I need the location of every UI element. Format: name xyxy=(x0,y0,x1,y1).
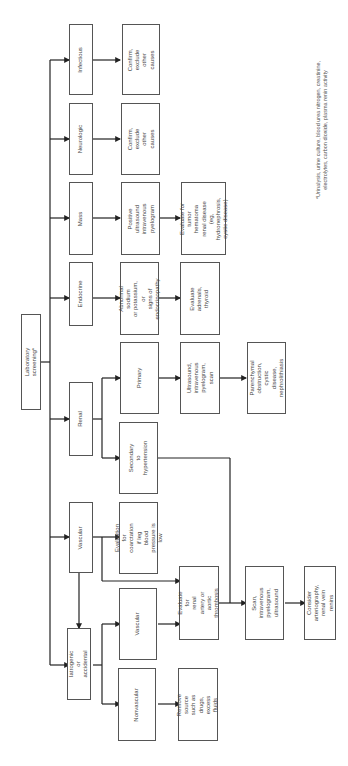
node-endocrine: Endocrine xyxy=(69,262,93,326)
node-infectious-confirm: Confirm, exclude other causes xyxy=(122,24,160,95)
node-iatrogenic-remove-source: Remove source such as drugs, excess flui… xyxy=(178,668,218,741)
node-label: Nonvascular xyxy=(133,688,140,721)
node-mass: Mass xyxy=(69,182,93,255)
node-endocrine-evaluate-adrenals: Evaluate adrenals, thyroid xyxy=(180,262,220,335)
node-label: Evaluate for tumor hematoma renal diseas… xyxy=(178,197,228,240)
node-label: Neurologic xyxy=(77,125,84,154)
node-label: Endocrine xyxy=(77,280,84,307)
node-label: Infectious xyxy=(77,47,84,73)
node-label: Confirm, exclude other causes xyxy=(126,128,155,151)
node-label: Parenchymal obstruction, cystic disease,… xyxy=(248,359,284,397)
footnote: *Urinalysis, urine culture, blood urea n… xyxy=(315,10,329,250)
node-label: Vascular xyxy=(134,613,141,636)
node-label: Renal xyxy=(77,411,84,427)
node-mass-ultrasound: Positive ultrasound intravenous pyelogra… xyxy=(121,182,160,255)
node-label: Primary xyxy=(136,368,143,389)
node-laboratory-screening: Laboratory screening* xyxy=(21,314,41,410)
connector-lines xyxy=(0,0,348,766)
node-iatrogenic: Iatrogenic or accidental xyxy=(67,628,91,700)
node-vascular-arteriography: Consider arteriography, renal vein renin… xyxy=(304,566,336,640)
node-renal-primary: Primary xyxy=(120,342,159,414)
node-label: Remove source such as drugs, excess flui… xyxy=(176,693,219,715)
node-infectious: Infectious xyxy=(69,24,93,95)
node-label: Iatrogenic or accidental xyxy=(68,650,90,677)
node-label: Positive ultrasound intravenous pyelogra… xyxy=(126,203,155,234)
node-label: Scan, intravenous pyelogram, ultrasound xyxy=(250,587,279,618)
node-label: Vascular xyxy=(77,526,84,549)
node-vascular-scan: Scan, intravenous pyelogram, ultrasound xyxy=(245,566,284,640)
node-label: Evaluation for coarctation if leg blood … xyxy=(113,523,163,552)
node-label: Secondary to hypertension xyxy=(128,441,150,475)
node-neurologic-confirm: Confirm, exclude other causes xyxy=(121,103,160,175)
node-renal-secondary: Secondary to hypertension xyxy=(119,422,158,494)
node-label: Evaluate adrenals, thyroid xyxy=(189,286,211,311)
node-iatrogenic-nonvascular: Nonvascular xyxy=(118,668,156,741)
node-label: Mass xyxy=(77,211,84,225)
node-label: Consider arteriography, renal vein renin… xyxy=(306,585,335,622)
node-renal: Renal xyxy=(69,382,93,456)
node-renal-parenchymal: Parenchymal obstruction, cystic disease,… xyxy=(247,342,286,414)
node-label: Laboratory screening* xyxy=(24,348,38,377)
node-renal-ultrasound: Ultrasound, intravenous pyelogram, scan xyxy=(180,342,220,414)
node-iatrogenic-vascular: Vascular xyxy=(119,588,157,660)
node-label: Confirm, exclude other causes xyxy=(127,48,156,71)
node-vascular: Vascular xyxy=(69,502,93,573)
node-label: Ultrasound, intravenous pyelogram, scan xyxy=(186,362,215,393)
node-vascular-coarctation: Evaluation for coarctation if leg blood … xyxy=(119,502,158,574)
node-label: Abnormal sodium or potassium, or signs o… xyxy=(118,278,161,319)
node-label: Evaluate for renal artery or aortic thro… xyxy=(177,588,220,617)
node-mass-evaluate-tumor: Evaluate for tumor hematoma renal diseas… xyxy=(181,182,226,255)
node-endocrine-abnormal: Abnormal sodium or potassium, or signs o… xyxy=(120,262,159,335)
node-neurologic: Neurologic xyxy=(69,103,93,175)
node-vascular-renal-artery: Evaluate for renal artery or aortic thro… xyxy=(179,566,219,640)
